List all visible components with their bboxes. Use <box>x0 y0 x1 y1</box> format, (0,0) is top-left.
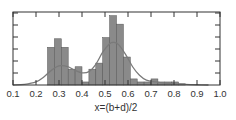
histogram-bar <box>68 69 75 85</box>
histogram-bar <box>117 24 124 85</box>
x-tick-label: 0.4 <box>75 88 88 99</box>
x-tick-label: 0.5 <box>98 88 111 99</box>
histogram-bar <box>75 67 82 85</box>
x-tick-label: 1.0 <box>213 88 226 99</box>
histogram-bar <box>48 47 55 85</box>
x-tick-label: 0.2 <box>29 88 42 99</box>
x-axis-tick-labels: 0.10.20.30.40.50.60.70.80.91.0 <box>6 88 226 99</box>
histogram-chart: 0.10.20.30.40.50.60.70.80.91.0 x=(b+d)/2 <box>0 0 236 120</box>
histogram-bar <box>130 79 137 85</box>
x-tick-label: 0.6 <box>121 88 134 99</box>
x-tick-label: 0.8 <box>167 88 180 99</box>
x-tick-label: 0.7 <box>144 88 157 99</box>
x-tick-label: 0.9 <box>190 88 203 99</box>
histogram-bars <box>48 16 186 85</box>
histogram-bar <box>54 39 61 85</box>
histogram-bar <box>96 63 103 85</box>
x-axis-title: x=(b+d)/2 <box>95 102 138 113</box>
x-tick-label: 0.1 <box>6 88 19 99</box>
x-tick-label: 0.3 <box>52 88 65 99</box>
histogram-bar <box>110 16 117 85</box>
